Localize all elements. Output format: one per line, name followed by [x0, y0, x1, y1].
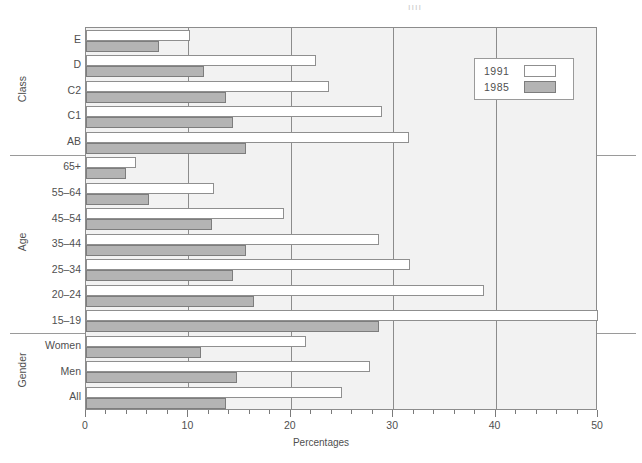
legend: 1991 1985	[474, 58, 574, 100]
group-title-age: Age	[16, 222, 28, 262]
category-label-C1: C1	[3, 109, 81, 121]
category-label-15–19: 15–19	[3, 314, 81, 326]
bar-chart: ıııı EDC2C1AB65+55–6445–5435–4425–3420–2…	[0, 0, 642, 463]
x-tick-major	[187, 410, 188, 417]
x-tick-minor	[577, 410, 578, 414]
legend-entry-1985: 1985	[484, 80, 556, 94]
bar-1985-C1	[86, 117, 233, 128]
group-title-gender: Gender	[16, 350, 28, 390]
x-tick-label-30: 30	[372, 419, 412, 431]
bar-1991-55–64	[86, 183, 214, 194]
group-title-class: Class	[16, 69, 28, 109]
category-label-Women: Women	[3, 339, 81, 351]
bar-1991-25–34	[86, 259, 410, 270]
bar-1985-20–24	[86, 296, 254, 307]
bar-group	[86, 183, 596, 209]
bar-group	[86, 387, 596, 413]
bar-group	[86, 132, 596, 158]
x-tick-label-10: 10	[167, 419, 207, 431]
x-tick-minor	[269, 410, 270, 414]
bar-1991-C2	[86, 81, 329, 92]
bar-1985-65+	[86, 168, 126, 179]
bar-1985-AB	[86, 143, 246, 154]
bar-1991-All	[86, 387, 342, 398]
category-label-AB: AB	[3, 135, 81, 147]
x-tick-label-50: 50	[577, 419, 617, 431]
bar-1985-15–19	[86, 321, 379, 332]
x-tick-minor	[351, 410, 352, 414]
legend-label-1991: 1991	[484, 65, 520, 77]
bar-1991-C1	[86, 106, 382, 117]
bar-1985-All	[86, 398, 226, 409]
category-label-All: All	[3, 390, 81, 402]
bar-group	[86, 234, 596, 260]
x-tick-label-40: 40	[475, 419, 515, 431]
bar-1991-D	[86, 55, 316, 66]
x-tick-minor	[331, 410, 332, 414]
bar-group	[86, 157, 596, 183]
bar-1991-E	[86, 30, 190, 41]
bar-group	[86, 310, 596, 336]
category-label-E: E	[3, 33, 81, 45]
x-tick-minor	[372, 410, 373, 414]
bar-1991-Women	[86, 336, 306, 347]
stray-mark: ıııı	[408, 2, 422, 12]
x-tick-minor	[413, 410, 414, 414]
category-label-45–54: 45–54	[3, 212, 81, 224]
category-label-Men: Men	[3, 365, 81, 377]
x-tick-major	[495, 410, 496, 417]
category-label-C2: C2	[3, 84, 81, 96]
category-label-D: D	[3, 58, 81, 70]
legend-label-1985: 1985	[484, 81, 520, 93]
legend-swatch-1991	[524, 65, 556, 77]
bar-group	[86, 30, 596, 56]
x-tick-minor	[146, 410, 147, 414]
x-tick-minor	[228, 410, 229, 414]
x-tick-minor	[167, 410, 168, 414]
bar-group	[86, 259, 596, 285]
category-label-55–64: 55–64	[3, 186, 81, 198]
bar-1991-35–44	[86, 234, 379, 245]
bar-1985-45–54	[86, 219, 212, 230]
bar-1985-D	[86, 66, 204, 77]
bar-1985-Women	[86, 347, 201, 358]
x-tick-major	[85, 410, 86, 417]
category-label-65+: 65+	[3, 160, 81, 172]
bar-1991-45–54	[86, 208, 284, 219]
x-tick-minor	[536, 410, 537, 414]
bar-1991-15–19	[86, 310, 598, 321]
x-tick-minor	[310, 410, 311, 414]
bar-1985-25–34	[86, 270, 233, 281]
bar-1991-65+	[86, 157, 136, 168]
bar-1985-C2	[86, 92, 226, 103]
x-tick-minor	[249, 410, 250, 414]
bar-1991-20–24	[86, 285, 484, 296]
x-tick-major	[597, 410, 598, 417]
bar-group	[86, 361, 596, 387]
legend-entry-1991: 1991	[484, 64, 556, 78]
bar-1985-35–44	[86, 245, 246, 256]
x-tick-minor	[556, 410, 557, 414]
category-label-35–44: 35–44	[3, 237, 81, 249]
bar-group	[86, 208, 596, 234]
x-tick-minor	[474, 410, 475, 414]
x-tick-minor	[126, 410, 127, 414]
bar-group	[86, 106, 596, 132]
x-tick-minor	[208, 410, 209, 414]
category-label-25–34: 25–34	[3, 263, 81, 275]
bar-1985-55–64	[86, 194, 149, 205]
x-tick-label-20: 20	[270, 419, 310, 431]
x-tick-minor	[105, 410, 106, 414]
category-axis: EDC2C1AB65+55–6445–5435–4425–3420–2415–1…	[0, 0, 81, 383]
bar-1991-AB	[86, 132, 409, 143]
x-tick-label-0: 0	[65, 419, 105, 431]
x-tick-minor	[515, 410, 516, 414]
bar-group	[86, 336, 596, 362]
bar-1991-Men	[86, 361, 370, 372]
bar-1985-E	[86, 41, 159, 52]
x-tick-minor	[433, 410, 434, 414]
bar-1985-Men	[86, 372, 237, 383]
category-label-20–24: 20–24	[3, 288, 81, 300]
x-tick-minor	[454, 410, 455, 414]
x-axis-title: Percentages	[0, 437, 642, 448]
